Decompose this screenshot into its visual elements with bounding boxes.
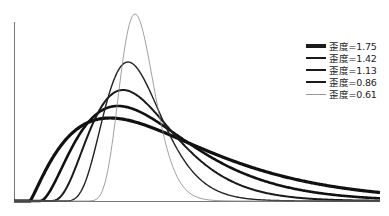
density-curve bbox=[14, 118, 380, 201]
legend-label: 歪度=0.61 bbox=[329, 87, 377, 101]
skewness-density-chart bbox=[0, 0, 389, 216]
legend: 歪度=1.75 歪度=1.42 歪度=1.13 歪度=0.86 歪度=0.61 bbox=[306, 40, 389, 100]
legend-swatch bbox=[306, 57, 326, 60]
legend-swatch bbox=[306, 81, 326, 82]
legend-item: 歪度=0.61 bbox=[306, 88, 389, 100]
legend-swatch bbox=[306, 44, 326, 47]
legend-swatch bbox=[306, 94, 326, 95]
legend-swatch bbox=[306, 69, 326, 71]
